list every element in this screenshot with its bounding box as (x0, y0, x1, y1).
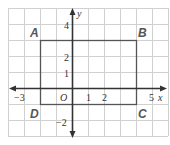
y-axis-label: y (76, 8, 82, 19)
coordinate-plane: y x O −3 1 2 5 4 2 1 −2 A B C D (0, 0, 170, 145)
vertex-label-a: A (29, 26, 39, 40)
origin-label: O (60, 92, 67, 103)
x-tick-label: 5 (149, 92, 154, 103)
y-tick-label: 1 (64, 68, 69, 79)
x-axis-right-arrow-icon (160, 86, 167, 92)
y-tick-label: 4 (64, 20, 69, 31)
y-axis-up-arrow-icon (70, 8, 76, 15)
y-tick-label: −2 (56, 117, 67, 128)
x-axis-label: x (157, 92, 163, 103)
x-tick-label: −3 (14, 92, 25, 103)
vertex-label-c: C (138, 107, 147, 121)
x-tick-label: 1 (86, 92, 91, 103)
x-tick-label: 2 (102, 92, 107, 103)
vertex-label-b: B (138, 26, 147, 40)
y-tick-label: 2 (64, 52, 69, 63)
vertex-label-d: D (30, 107, 39, 121)
x-axis-left-arrow-icon (9, 86, 16, 92)
